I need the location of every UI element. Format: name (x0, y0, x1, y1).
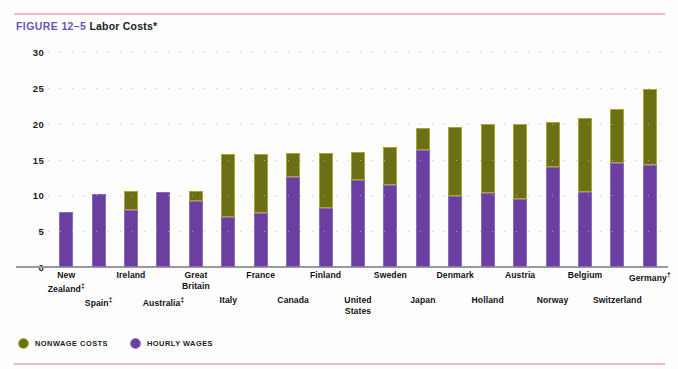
x-axis-label-italy: Italy (198, 295, 260, 306)
legend-label-nonwage: NONWAGE COSTS (35, 339, 108, 348)
bar-segment-nonwage-costs (578, 118, 592, 193)
y-axis-tick-30: 30 (33, 47, 44, 58)
bar-switzerland (610, 109, 624, 267)
bar-denmark (448, 127, 462, 267)
x-axis-label-switzerland: Switzerland (587, 295, 649, 306)
top-rule (14, 13, 665, 15)
bar-italy (221, 154, 235, 267)
bar-ireland (124, 191, 138, 267)
bar-japan (416, 128, 430, 267)
x-axis-labels: NewZealand‡Spain‡IrelandAustralia‡GreatB… (48, 270, 668, 320)
figure-number: FIGURE 12–5 (16, 20, 86, 32)
gridline-20 (48, 124, 666, 125)
grid-area (48, 52, 666, 267)
y-axis-tick-25: 25 (33, 82, 44, 93)
x-axis-label-newzealand: NewZealand‡ (35, 270, 97, 294)
bar-segment-hourly-wages (254, 213, 268, 267)
bar-france (254, 154, 268, 267)
y-axis-tick-15: 15 (33, 154, 44, 165)
bar-segment-nonwage-costs (643, 89, 657, 165)
bar-segment-nonwage-costs (351, 152, 365, 180)
x-axis-label-japan: Japan (392, 295, 454, 306)
legend-label-wages: HOURLY WAGES (147, 339, 213, 348)
bar-newzealand (59, 212, 73, 267)
chart-plot-area: 051015202530 (18, 52, 666, 267)
bar-unitedstates (351, 152, 365, 267)
chart-legend: NONWAGE COSTSHOURLY WAGES (18, 335, 213, 351)
y-axis-tick-10: 10 (33, 190, 44, 201)
x-axis-label-holland: Holland (457, 295, 519, 306)
x-axis-label-ireland: Ireland (100, 270, 162, 281)
y-axis-tick-5: 5 (38, 226, 44, 237)
bar-canada (286, 153, 300, 267)
gridline-15 (48, 160, 666, 161)
figure-title-text: Labor Costs* (89, 20, 157, 32)
bar-belgium (578, 118, 592, 267)
x-axis-label-denmark: Denmark (424, 270, 486, 281)
bar-segment-hourly-wages (59, 212, 73, 267)
bar-segment-nonwage-costs (286, 153, 300, 177)
bar-segment-hourly-wages (351, 180, 365, 267)
bar-segment-hourly-wages (578, 192, 592, 267)
x-axis-label-finland: Finland (295, 270, 357, 281)
figure-title: FIGURE 12–5 Labor Costs* (16, 20, 157, 32)
bottom-rule (14, 363, 665, 365)
bar-segment-hourly-wages (513, 199, 527, 267)
bar-segment-hourly-wages (643, 165, 657, 267)
bar-segment-hourly-wages (189, 201, 203, 267)
legend-item-nonwage[interactable]: NONWAGE COSTS (18, 338, 108, 349)
legend-swatch-nonwage-icon (18, 338, 29, 349)
bar-segment-hourly-wages (383, 185, 397, 267)
x-axis-label-unitedstates: UnitedStates (327, 295, 389, 316)
bar-segment-nonwage-costs (513, 124, 527, 199)
bar-segment-hourly-wages (124, 210, 138, 267)
gridline-10 (48, 195, 666, 196)
x-axis-label-spain: Spain‡ (68, 295, 130, 308)
x-axis-label-belgium: Belgium (554, 270, 616, 281)
bar-segment-nonwage-costs (448, 127, 462, 196)
x-axis-label-france: France (230, 270, 292, 281)
bar-segment-nonwage-costs (124, 191, 138, 210)
x-axis-label-australia: Australia‡ (133, 295, 195, 308)
bar-segment-nonwage-costs (416, 128, 430, 150)
legend-swatch-wages-icon (130, 338, 141, 349)
x-axis-label-germany: Germany† (619, 270, 678, 283)
bar-finland (319, 153, 333, 267)
bar-segment-hourly-wages (221, 217, 235, 267)
bar-segment-hourly-wages (286, 177, 300, 267)
x-axis-label-austria: Austria (489, 270, 551, 281)
bar-segment-nonwage-costs (221, 154, 235, 217)
gridline-5 (48, 231, 666, 232)
bar-segment-hourly-wages (319, 208, 333, 267)
gridline-25 (48, 88, 666, 89)
bar-segment-hourly-wages (610, 163, 624, 267)
bar-segment-hourly-wages (416, 150, 430, 267)
bar-germany (643, 89, 657, 267)
bar-segment-nonwage-costs (319, 153, 333, 207)
x-axis-label-norway: Norway (522, 295, 584, 306)
y-axis: 051015202530 (18, 52, 44, 267)
figure-card: FIGURE 12–5 Labor Costs* 051015202530 Ne… (0, 0, 678, 369)
bar-segment-hourly-wages (481, 193, 495, 267)
gridline-30 (48, 52, 666, 53)
x-axis-label-sweden: Sweden (360, 270, 422, 281)
bar-segment-nonwage-costs (254, 154, 268, 213)
bar-greatbritain (189, 191, 203, 267)
bar-segment-nonwage-costs (610, 109, 624, 163)
bar-segment-nonwage-costs (383, 147, 397, 185)
bar-australia (156, 192, 170, 267)
y-axis-tick-20: 20 (33, 118, 44, 129)
bar-segment-hourly-wages (156, 192, 170, 267)
bar-segment-hourly-wages (546, 167, 560, 267)
legend-item-wages[interactable]: HOURLY WAGES (130, 338, 213, 349)
x-axis-label-greatbritain: GreatBritain (165, 270, 227, 291)
bar-sweden (383, 147, 397, 267)
x-axis-label-canada: Canada (262, 295, 324, 306)
